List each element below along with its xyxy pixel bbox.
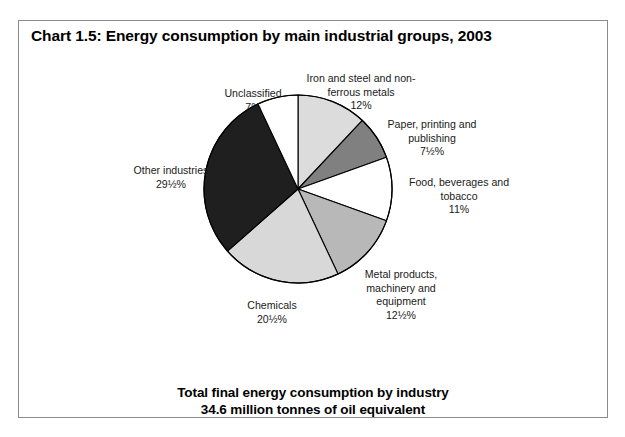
chart-total-line1: Total final energy consumption by indust… — [19, 384, 607, 401]
pie-label-unclassified: Unclassified 7% — [205, 74, 301, 128]
pie-label-iron-steel-name: Iron and steel and non- ferrous metals — [307, 72, 416, 97]
pie-label-other-industries-name: Other industries — [134, 164, 209, 176]
pie-label-other-industries-pct: 29½% — [119, 178, 223, 191]
pie-label-food-beverages: Food, beverages and tobacco 11% — [391, 163, 527, 230]
pie-label-other-industries: Other industries 29½% — [119, 151, 223, 205]
pie-label-unclassified-pct: 7% — [205, 101, 301, 114]
chart-total-block: Total final energy consumption by indust… — [19, 384, 607, 418]
pie-label-unclassified-name: Unclassified — [224, 87, 281, 99]
chart-title: Chart 1.5: Energy consumption by main in… — [31, 27, 492, 45]
pie-label-metal-products-pct: 12½% — [345, 309, 457, 322]
chart-frame: Chart 1.5: Energy consumption by main in… — [18, 20, 608, 418]
page-top-cut-text — [14, 0, 614, 9]
pie-label-paper-printing-pct: 7½% — [364, 145, 500, 158]
pie-label-food-beverages-pct: 11% — [391, 203, 527, 216]
pie-label-paper-printing: Paper, printing and publishing 7½% — [364, 105, 500, 172]
pie-label-chemicals-pct: 20½% — [222, 313, 322, 326]
pie-label-metal-products-name: Metal products, machinery and equipment — [365, 268, 437, 307]
pie-label-food-beverages-name: Food, beverages and tobacco — [409, 176, 509, 201]
chart-total-line2: 34.6 million tonnes of oil equivalent — [19, 401, 607, 418]
pie-label-chemicals: Chemicals 20½% — [222, 286, 322, 340]
pie-label-chemicals-name: Chemicals — [247, 299, 296, 311]
pie-label-paper-printing-name: Paper, printing and publishing — [388, 118, 477, 143]
pie-label-metal-products: Metal products, machinery and equipment … — [345, 255, 457, 335]
